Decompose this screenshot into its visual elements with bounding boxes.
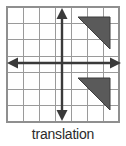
upper-triangle [78, 17, 110, 49]
arrow-down-icon [57, 110, 68, 121]
arrow-up-icon [57, 8, 68, 19]
figure-caption: translation [0, 124, 126, 144]
translation-figure: translation [0, 0, 126, 146]
arrow-left-icon [7, 58, 18, 69]
